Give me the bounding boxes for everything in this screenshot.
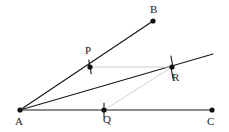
segment-QR [104,67,172,110]
geometry-figure: A B C P Q R [0,0,229,132]
label-point-c: C [207,116,214,127]
point-b [150,18,155,23]
geometry-canvas [0,0,229,132]
points-group [17,18,214,112]
point-r [169,64,174,69]
point-a [17,107,22,112]
point-q [101,107,106,112]
ray-AB [20,21,153,110]
label-point-b: B [150,4,157,15]
segments-group [20,21,213,110]
label-point-a: A [15,116,23,127]
point-p [87,64,92,69]
label-point-r: R [172,72,179,83]
point-c [209,107,214,112]
label-point-q: Q [103,114,111,125]
label-point-p: P [85,45,91,56]
